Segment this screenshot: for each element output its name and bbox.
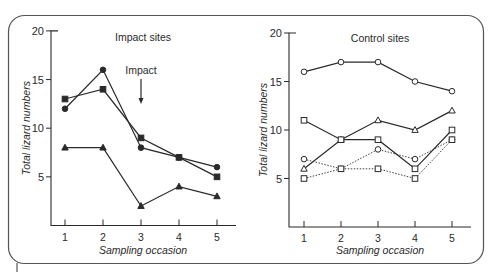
square-marker-icon (100, 86, 106, 92)
impact-annotation-label: Impact (125, 64, 157, 76)
y-tick-label: 20 (32, 25, 44, 37)
square-marker-icon (375, 137, 381, 143)
circle-marker-icon (100, 67, 106, 73)
square-marker-icon (62, 96, 68, 102)
y-tick-label: 15 (270, 76, 282, 88)
y-tick-label: 15 (32, 74, 44, 86)
square-marker-icon (412, 166, 418, 172)
x-tick-label: 1 (301, 232, 307, 244)
circle-marker-icon (301, 156, 307, 162)
series-line (65, 148, 217, 206)
control-sites-panel: 510152012345Control sitesSampling occasi… (257, 27, 471, 256)
x-tick-label: 2 (100, 231, 106, 243)
x-tick-label: 4 (412, 232, 418, 244)
figure-frame (9, 16, 484, 264)
circle-marker-icon (301, 69, 307, 75)
x-tick-label: 3 (138, 231, 144, 243)
circle-marker-icon (62, 106, 68, 112)
impact-sites-panel: 510152012345Impact sitesSampling occasio… (20, 25, 236, 256)
square-marker-icon (338, 166, 344, 172)
series-site-open-square-solid (301, 118, 455, 172)
triangle-marker-icon (301, 165, 307, 171)
y-tick-label: 5 (276, 173, 282, 185)
circle-marker-icon (338, 59, 344, 65)
axes (51, 31, 236, 226)
circle-marker-icon (375, 59, 381, 65)
series-line (304, 140, 452, 179)
circle-marker-icon (214, 164, 220, 170)
y-axis-label: Total lizard numbers (20, 80, 32, 175)
series-line (304, 140, 452, 169)
triangle-marker-icon (375, 117, 381, 123)
triangle-marker-icon (176, 183, 182, 189)
x-axis-label: Sampling occasion (336, 244, 424, 256)
x-tick-label: 4 (176, 231, 182, 243)
series-site-filled-triangle (62, 144, 220, 208)
x-axis-label: Sampling occasion (99, 244, 187, 256)
x-tick-label: 5 (449, 232, 455, 244)
square-marker-icon (176, 155, 182, 161)
x-tick-label: 3 (375, 232, 381, 244)
x-tick-label: 2 (338, 232, 344, 244)
x-tick-label: 5 (214, 231, 220, 243)
circle-marker-icon (412, 156, 418, 162)
series-site-open-square-dotted (301, 137, 455, 181)
square-marker-icon (214, 174, 220, 180)
square-marker-icon (449, 137, 455, 143)
square-marker-icon (301, 176, 307, 182)
square-marker-icon (449, 127, 455, 133)
circle-marker-icon (412, 79, 418, 85)
square-marker-icon (412, 176, 418, 182)
square-marker-icon (375, 166, 381, 172)
y-tick-label: 20 (270, 27, 282, 39)
x-tick-label: 1 (62, 231, 68, 243)
chart-title: Impact sites (115, 31, 171, 43)
square-marker-icon (138, 135, 144, 141)
circle-marker-icon (449, 88, 455, 94)
y-tick-label: 5 (38, 171, 44, 183)
series-site-open-circle-solid (301, 59, 455, 94)
series-line (304, 62, 452, 91)
triangle-marker-icon (449, 107, 455, 113)
chart-title: Control sites (351, 32, 409, 44)
square-marker-icon (338, 137, 344, 143)
series-line (304, 120, 452, 169)
circle-marker-icon (138, 145, 144, 151)
square-marker-icon (301, 118, 307, 124)
arrow-head-icon (139, 98, 144, 104)
y-axis-label: Total lizard numbers (257, 82, 269, 177)
y-tick-label: 10 (32, 122, 44, 134)
y-tick-label: 10 (270, 124, 282, 136)
circle-marker-icon (375, 147, 381, 153)
figure: 510152012345Impact sitesSampling occasio… (0, 0, 495, 272)
